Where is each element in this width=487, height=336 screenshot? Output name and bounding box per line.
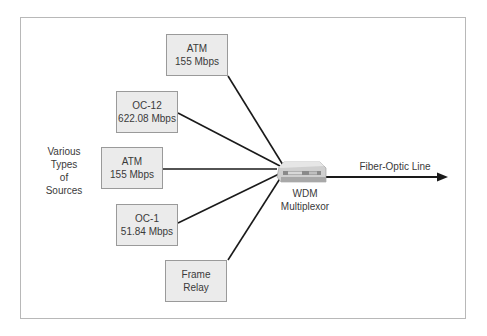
multiplexor-device-icon xyxy=(277,162,326,182)
sources-label-line: of xyxy=(44,171,84,184)
source-atm-top: ATM 155 Mbps xyxy=(166,34,228,76)
fiber-optic-label: Fiber-Optic Line xyxy=(355,160,435,173)
source-oc12: OC-12 622.08 Mbps xyxy=(116,91,178,133)
source-name: Frame xyxy=(182,268,211,281)
source-frame-relay: Frame Relay xyxy=(165,260,227,302)
source-atm-mid: ATM 155 Mbps xyxy=(101,147,163,189)
source-name: ATM xyxy=(187,42,207,55)
source-rate: 51.84 Mbps xyxy=(121,225,173,238)
wire-oc1 xyxy=(178,174,279,223)
wire-oc12 xyxy=(178,113,280,166)
sources-label-line: Various xyxy=(44,145,84,158)
arrowhead-icon xyxy=(437,173,448,182)
source-name: OC-12 xyxy=(132,99,161,112)
source-name: ATM xyxy=(122,155,142,168)
wire-atm-top xyxy=(228,76,283,165)
multiplexor-label: WDM Multiplexor xyxy=(275,187,335,213)
sources-label-line: Sources xyxy=(44,184,84,197)
multiplexor-label-line: WDM xyxy=(275,187,335,200)
multiplexor-label-line: Multiplexor xyxy=(275,200,335,213)
source-rate: 622.08 Mbps xyxy=(118,112,176,125)
source-oc1: OC-1 51.84 Mbps xyxy=(116,204,178,246)
source-rate: 155 Mbps xyxy=(110,168,154,181)
source-name: OC-1 xyxy=(135,212,159,225)
source-rate: Relay xyxy=(183,281,209,294)
source-rate: 155 Mbps xyxy=(175,55,219,68)
sources-label: Various Types of Sources xyxy=(44,145,84,197)
sources-label-line: Types xyxy=(44,158,84,171)
wire-frame-relay xyxy=(228,177,281,260)
